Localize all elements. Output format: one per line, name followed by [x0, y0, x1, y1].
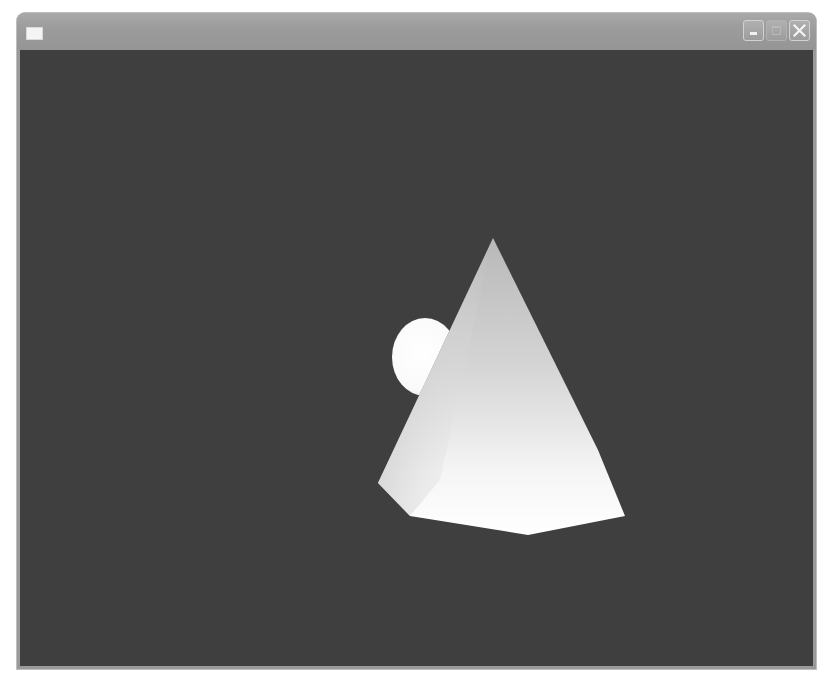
maximize-button	[766, 20, 787, 41]
opengl-viewport[interactable]	[20, 50, 813, 666]
window-icon[interactable]	[26, 27, 43, 40]
caption-buttons	[743, 20, 810, 41]
minimize-icon	[750, 32, 757, 35]
close-button[interactable]	[789, 20, 810, 41]
minimize-button[interactable]	[743, 20, 764, 41]
close-icon	[793, 24, 806, 37]
3d-scene	[20, 50, 813, 666]
app-window	[17, 13, 816, 669]
title-bar[interactable]	[17, 13, 816, 50]
maximize-icon	[772, 26, 781, 35]
